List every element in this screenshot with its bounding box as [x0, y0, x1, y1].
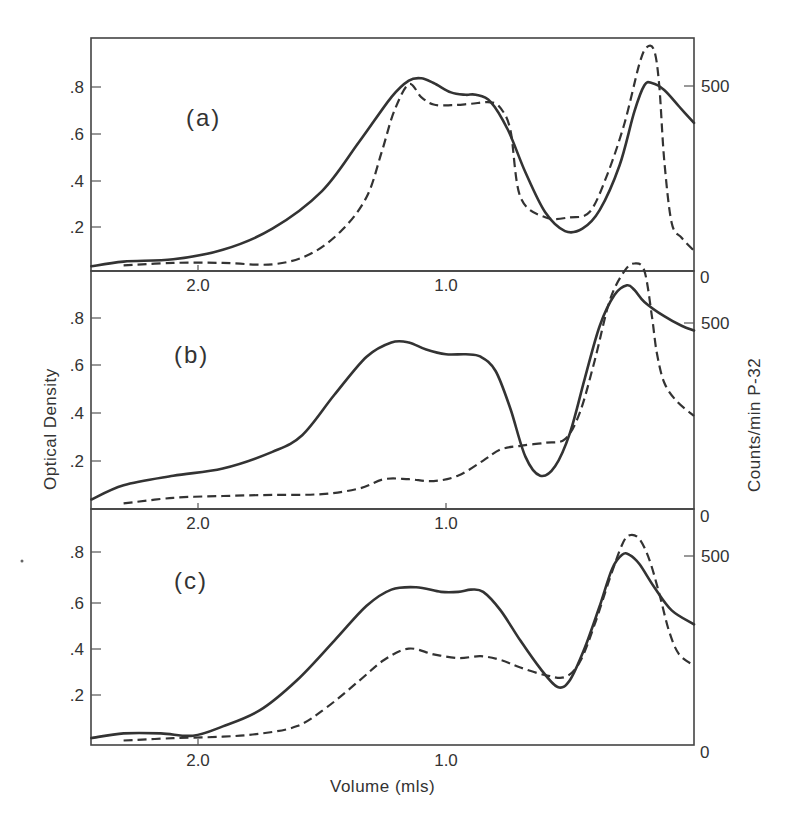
- panel-b-right-500: 500: [701, 314, 729, 333]
- panel-b-optical-density-curve: [91, 285, 694, 499]
- svg-text:.2: .2: [70, 452, 84, 471]
- svg-text:.4: .4: [70, 640, 84, 659]
- svg-text:.6: .6: [70, 356, 84, 375]
- y-axis-right-title: Counts/min P-32: [745, 358, 764, 492]
- scan-speck: [21, 560, 24, 563]
- panel-c-left-tick-labels: .2 .4 .6 .8: [70, 543, 84, 705]
- panel-a-p32-counts-curve: [124, 46, 694, 266]
- panel-c-frame: [91, 509, 694, 745]
- panel-b-p32-counts-curve: [124, 263, 694, 503]
- panel-b-left-ticks: [91, 318, 101, 461]
- panel-b-xlabel-2: 2.0: [186, 514, 210, 533]
- svg-text:.2: .2: [70, 686, 84, 705]
- panel-b-label: (b): [174, 341, 209, 368]
- chromatography-figure: .2 .4 .6 .8 .2 .4 .6 .8 .2 .4 .6 .8 500 …: [0, 0, 798, 828]
- panel-b-xlabel-1: 1.0: [434, 514, 458, 533]
- svg-text:.4: .4: [70, 172, 84, 191]
- panel-a-xlabel-1: 1.0: [434, 276, 458, 295]
- panel-c-left-ticks: [91, 552, 101, 695]
- panel-a-xlabel-2: 2.0: [186, 276, 210, 295]
- panel-c-xlabel-1: 1.0: [434, 751, 458, 770]
- panel-a-right-0: 0: [700, 268, 709, 287]
- panel-a-optical-density-curve: [91, 78, 694, 266]
- panel-a-frame: [91, 38, 694, 271]
- svg-text:.4: .4: [70, 404, 84, 423]
- panel-a-right-500: 500: [701, 77, 729, 96]
- panel-b-left-tick-labels: .2 .4 .6 .8: [70, 309, 84, 471]
- x-axis-title: Volume (mls): [330, 777, 435, 796]
- panel-c-right-0: 0: [700, 743, 709, 762]
- svg-text:.8: .8: [70, 543, 84, 562]
- panel-c-xlabel-2: 2.0: [186, 751, 210, 770]
- panel-a-label: (a): [186, 104, 221, 131]
- panel-c-p32-counts-curve: [124, 535, 694, 741]
- panel-a-left-ticks: [91, 87, 101, 227]
- svg-text:.8: .8: [70, 309, 84, 328]
- panel-c-right-500: 500: [701, 547, 729, 566]
- y-axis-left-title: Optical Density: [41, 368, 60, 490]
- svg-text:.8: .8: [70, 78, 84, 97]
- svg-text:.6: .6: [70, 594, 84, 613]
- svg-text:.2: .2: [70, 218, 84, 237]
- svg-text:.6: .6: [70, 125, 84, 144]
- panel-a-left-tick-labels: .2 .4 .6 .8: [70, 78, 84, 237]
- panel-c-label: (c): [174, 567, 208, 594]
- panel-b-right-0: 0: [700, 507, 709, 526]
